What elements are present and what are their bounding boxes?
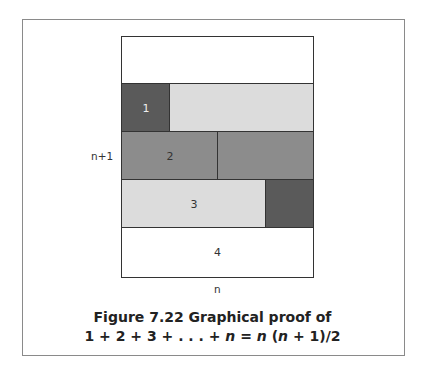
row-1-cell-rest [170,84,313,132]
row-2-label: 2 [167,150,174,163]
row-2-cell-rest [218,132,313,180]
row-4-label: 4 [214,246,221,259]
row-3-cell-rest [266,180,313,228]
figure-caption-line1: Figure 7.22 Graphical proof of [0,308,425,326]
formula-part: 1 + 2 + 3 + . . . + [85,328,226,344]
divider [265,180,266,228]
row-3-cell-number: 3 [122,180,266,228]
divider [217,132,218,180]
row-1-cell-number: 1 [122,84,170,132]
row-0-cell [122,37,313,84]
divider [169,84,170,132]
figure-caption-line2: 1 + 2 + 3 + . . . + n = n (n + 1)/2 [0,327,425,345]
formula-var: n [225,328,235,344]
height-label: n+1 [91,150,113,162]
formula-part: ( [267,328,278,344]
divider [122,227,313,228]
row-3-label: 3 [191,198,198,211]
row-1-label: 1 [143,102,150,115]
row-4-cell-number: 4 [122,228,313,277]
formula-part: + 1)/2 [288,328,340,344]
formula-var: n [257,328,267,344]
formula-var: n [278,328,288,344]
staircase-grid: 1 2 3 4 [121,36,314,278]
row-2-cell-number: 2 [122,132,218,180]
divider [122,83,313,84]
formula-part: = [235,328,256,344]
width-label: n [214,283,221,295]
